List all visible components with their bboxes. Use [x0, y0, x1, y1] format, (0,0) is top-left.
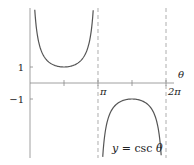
axes — [30, 8, 174, 158]
y-tick-label: −1 — [9, 94, 24, 105]
x-axis-label: θ — [178, 69, 184, 80]
x-tick-label: π — [99, 86, 107, 97]
csc-chart: π2π1−1θy = csc θ — [0, 0, 194, 165]
function-label: y = csc θ — [111, 142, 163, 155]
x-tick-label: 2π — [167, 86, 181, 97]
csc-branch — [35, 10, 93, 67]
y-tick-label: 1 — [18, 62, 24, 73]
tick-labels: π2π1−1θy = csc θ — [9, 62, 184, 155]
